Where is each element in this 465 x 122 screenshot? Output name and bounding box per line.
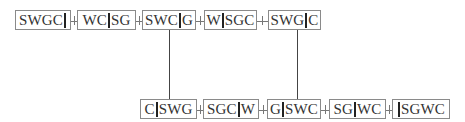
river-divider — [305, 13, 307, 28]
river-divider — [156, 102, 158, 117]
river-divider — [354, 102, 356, 117]
state-node-g-swc: GSWC — [267, 99, 321, 119]
node-right-bank: SWC — [285, 101, 318, 118]
river-divider — [222, 13, 224, 28]
river-divider — [179, 13, 181, 28]
node-right-bank: SGC — [225, 12, 255, 29]
node-right-bank: C — [308, 12, 318, 29]
state-node-wc-sg: WCSG — [77, 10, 136, 30]
edge-tick — [389, 105, 390, 114]
node-right-bank: W — [241, 101, 255, 118]
node-left-bank: SWGC — [19, 12, 63, 29]
edge-tick — [139, 16, 140, 25]
node-right-bank: SG — [111, 12, 131, 29]
state-node-sgwc: SGWC — [392, 99, 450, 119]
state-node-swc-g: SWCG — [142, 10, 196, 30]
node-left-bank: G — [270, 101, 281, 118]
river-divider — [398, 102, 400, 117]
edge-tick — [74, 16, 75, 25]
node-left-bank: W — [206, 12, 220, 29]
state-node-sgc-w: SGCW — [203, 99, 259, 119]
node-left-bank: SGC — [207, 101, 237, 118]
river-divider — [238, 102, 240, 117]
state-node-swg-c: SWGC — [268, 10, 321, 30]
state-node-swgc: SWGC — [15, 10, 71, 30]
node-left-bank: WC — [82, 12, 107, 29]
state-node-w-sgc: WSGC — [204, 10, 257, 30]
river-divider — [282, 102, 284, 117]
state-node-sg-wc: SGWC — [329, 99, 386, 119]
river-divider — [108, 13, 110, 28]
edge-vertical — [169, 30, 170, 99]
node-right-bank: G — [182, 12, 193, 29]
edge-tick — [262, 16, 263, 25]
node-left-bank: SWG — [270, 12, 304, 29]
node-left-bank: SG — [333, 101, 353, 118]
edge-tick — [200, 16, 201, 25]
state-node-c-swg: CSWG — [140, 99, 197, 119]
node-right-bank: SGWC — [401, 101, 445, 118]
node-right-bank: WC — [357, 101, 382, 118]
edge-tick — [263, 105, 264, 114]
edge-tick — [200, 105, 201, 114]
node-left-bank: C — [144, 101, 154, 118]
node-left-bank: SWC — [145, 12, 178, 29]
node-right-bank: SWG — [159, 101, 193, 118]
river-divider — [64, 13, 66, 28]
edge-tick — [325, 105, 326, 114]
edge-vertical — [297, 30, 298, 99]
